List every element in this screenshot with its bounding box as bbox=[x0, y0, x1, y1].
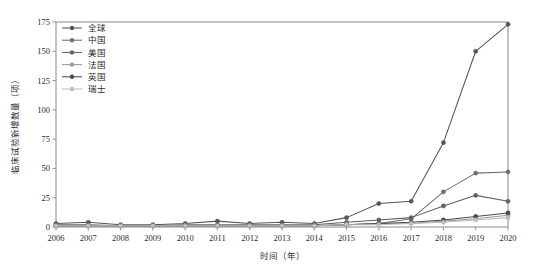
plot-frame bbox=[56, 22, 508, 227]
data-point bbox=[377, 223, 381, 227]
data-point bbox=[441, 220, 445, 224]
x-axis-tick-label: 2011 bbox=[209, 233, 226, 243]
data-point bbox=[506, 22, 510, 26]
data-point bbox=[344, 216, 348, 220]
legend-label-0: 全球 bbox=[88, 23, 106, 33]
data-point bbox=[474, 171, 478, 175]
y-axis-tick-label: 50 bbox=[42, 163, 51, 173]
data-point bbox=[474, 218, 478, 222]
x-axis-tick-label: 2020 bbox=[500, 233, 517, 243]
data-point bbox=[409, 199, 413, 203]
chart-container: 0255075100125150175200620072008200920102… bbox=[0, 0, 535, 275]
x-axis-tick-label: 2019 bbox=[467, 233, 484, 243]
legend: 全球中国美国法国英国瑞士 bbox=[62, 23, 106, 94]
x-axis-tick-label: 2007 bbox=[80, 233, 97, 243]
y-axis-tick-label: 175 bbox=[37, 17, 50, 27]
legend-marker-2 bbox=[70, 50, 74, 54]
x-axis-tick-label: 2008 bbox=[112, 233, 129, 243]
data-point bbox=[441, 141, 445, 145]
data-point bbox=[474, 49, 478, 53]
data-point bbox=[409, 221, 413, 225]
legend-marker-5 bbox=[70, 87, 74, 91]
y-axis-title: 临床试验新增数量（项） bbox=[10, 75, 20, 174]
legend-label-5: 瑞士 bbox=[88, 84, 106, 94]
data-point bbox=[506, 216, 510, 220]
data-point bbox=[377, 201, 381, 205]
data-point bbox=[506, 199, 510, 203]
legend-marker-4 bbox=[70, 75, 74, 79]
x-axis-tick-label: 2006 bbox=[48, 233, 65, 243]
legend-marker-0 bbox=[70, 26, 74, 30]
line-chart: 0255075100125150175200620072008200920102… bbox=[0, 0, 535, 275]
data-point bbox=[86, 224, 90, 228]
data-point bbox=[506, 211, 510, 215]
legend-label-4: 英国 bbox=[88, 72, 106, 82]
data-point bbox=[344, 223, 348, 227]
data-point bbox=[280, 224, 284, 228]
legend-marker-1 bbox=[70, 38, 74, 42]
y-axis-tick-label: 150 bbox=[37, 46, 50, 56]
data-point bbox=[474, 193, 478, 197]
x-axis-tick-label: 2009 bbox=[144, 233, 161, 243]
legend-label-2: 美国 bbox=[88, 48, 106, 58]
x-axis-tick-label: 2013 bbox=[274, 233, 291, 243]
data-point bbox=[506, 170, 510, 174]
data-point bbox=[151, 224, 155, 228]
x-axis-tick-label: 2014 bbox=[306, 233, 324, 243]
data-point bbox=[409, 216, 413, 220]
x-axis-title: 时间（年） bbox=[260, 251, 305, 261]
y-axis-tick-label: 100 bbox=[37, 105, 50, 115]
y-axis-tick-label: 125 bbox=[37, 76, 50, 86]
x-axis-tick-label: 2016 bbox=[370, 233, 387, 243]
data-point bbox=[54, 224, 58, 228]
x-axis-tick-label: 2017 bbox=[403, 233, 420, 243]
y-axis-tick-label: 25 bbox=[42, 193, 51, 203]
legend-marker-3 bbox=[70, 62, 74, 66]
x-axis-tick-label: 2010 bbox=[177, 233, 194, 243]
legend-label-1: 中国 bbox=[88, 35, 106, 45]
series-line bbox=[56, 172, 508, 226]
legend-label-3: 法国 bbox=[88, 60, 106, 70]
x-axis-tick-label: 2015 bbox=[338, 233, 355, 243]
data-point bbox=[312, 224, 316, 228]
y-axis-tick-label: 0 bbox=[46, 222, 50, 232]
data-point bbox=[441, 204, 445, 208]
data-point bbox=[215, 224, 219, 228]
data-point bbox=[441, 190, 445, 194]
x-axis-tick-label: 2018 bbox=[435, 233, 452, 243]
data-point bbox=[183, 224, 187, 228]
data-point bbox=[248, 224, 252, 228]
y-axis-tick-label: 75 bbox=[42, 134, 51, 144]
series-0 bbox=[54, 22, 510, 227]
x-axis-tick-label: 2012 bbox=[241, 233, 258, 243]
data-point bbox=[118, 224, 122, 228]
